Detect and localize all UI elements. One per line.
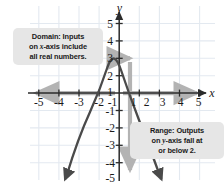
y-tick-label: -3: [105, 139, 115, 151]
range-callout-line3: or below 2.: [133, 146, 221, 156]
domain-callout-line1: Domain: Inputs: [16, 32, 100, 42]
domain-line2-pre: on: [29, 42, 40, 51]
x-tick-label: -2: [94, 96, 104, 108]
x-tick-label: 2: [144, 96, 150, 108]
y-tick-label: 1: [107, 86, 113, 98]
x-tick-label: 1: [131, 96, 137, 108]
x-tick-label: 5: [196, 96, 202, 108]
domain-callout: Domain: Inputs on x-axis include all rea…: [13, 28, 103, 65]
range-line2-post: -axis fall at: [166, 136, 203, 145]
x-tick-label: -5: [34, 96, 44, 108]
y-tick-label: -4: [105, 157, 115, 169]
x-axis-label: x: [208, 86, 215, 100]
range-callout-line1: Range: Outputs: [133, 126, 221, 136]
x-tick-label: 4: [178, 96, 184, 108]
x-tick-label: -4: [54, 96, 64, 108]
range-callout-line2: on y-axis fall at: [133, 136, 221, 146]
y-tick-label: -2: [105, 122, 115, 134]
x-tick-label: 3: [160, 96, 166, 108]
range-callout: Range: Outputs on y-axis fall at or belo…: [130, 122, 224, 159]
range-line2-pre: on: [152, 136, 163, 145]
y-tick-label: 4: [107, 35, 113, 47]
y-tick-label: 2: [107, 70, 113, 82]
y-tick-label: 3: [107, 52, 113, 64]
y-tick-label: -1: [105, 105, 115, 117]
y-axis-label: y: [116, 1, 123, 15]
domain-line2-post: -axis include: [43, 42, 86, 51]
domain-callout-line3: all real numbers.: [16, 52, 100, 62]
domain-callout-line2: on x-axis include: [16, 42, 100, 52]
y-tick-label: -5: [105, 172, 115, 184]
y-tick-label: 5: [107, 18, 113, 30]
x-tick-label: -3: [74, 96, 84, 108]
